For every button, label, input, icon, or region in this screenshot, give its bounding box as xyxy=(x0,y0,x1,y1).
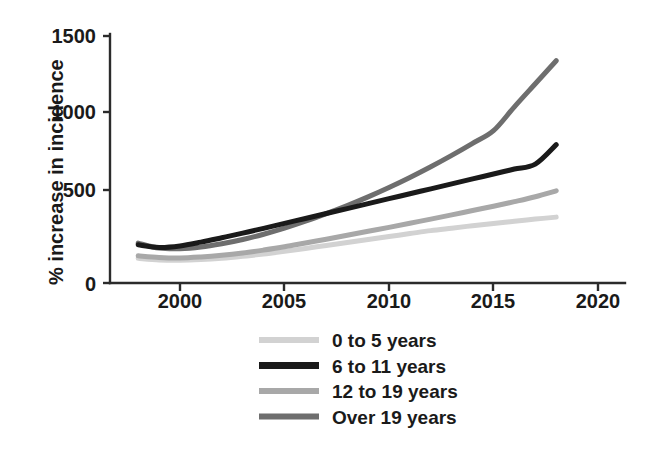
series-line-0-to-5-years xyxy=(138,217,556,260)
y-tick-label-500: 500 xyxy=(63,179,96,201)
chart-figure: % increase in incidence 1500 1000 500 0 … xyxy=(0,0,655,456)
x-tick-label-2020: 2020 xyxy=(576,290,621,312)
legend-label-3: Over 19 years xyxy=(332,407,457,428)
x-tick-label-2015: 2015 xyxy=(471,290,516,312)
x-tick-label-2000: 2000 xyxy=(158,290,203,312)
line-chart: % increase in incidence 1500 1000 500 0 … xyxy=(0,0,655,456)
y-tick-label-1000: 1000 xyxy=(52,101,97,123)
y-tick-label-0: 0 xyxy=(85,273,96,295)
y-tick-label-1500: 1500 xyxy=(52,25,97,47)
legend-label-0: 0 to 5 years xyxy=(332,330,437,351)
series-line-6-to-11-years xyxy=(138,145,556,248)
legend-label-1: 6 to 11 years xyxy=(332,356,446,377)
series-line-over-19-years xyxy=(138,61,556,249)
series-group xyxy=(138,61,556,261)
x-tick-label-2005: 2005 xyxy=(262,290,307,312)
x-tick-label-2010: 2010 xyxy=(367,290,412,312)
y-axis-title: % increase in incidence xyxy=(45,59,67,285)
legend-label-2: 12 to 19 years xyxy=(332,381,458,402)
chart-legend: 0 to 5 years6 to 11 years12 to 19 yearsO… xyxy=(259,330,458,428)
